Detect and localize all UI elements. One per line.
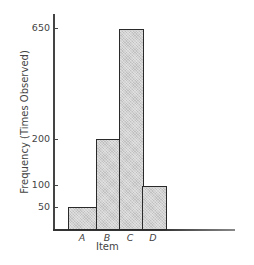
x-label-d: D — [143, 232, 163, 243]
y-tick-label-100: 100 — [2, 180, 50, 190]
bar-c — [119, 29, 144, 230]
bar-d — [142, 186, 167, 230]
y-tick-label-200: 200 — [2, 134, 50, 144]
y-axis-title: Frequency (Times Observed) — [19, 22, 30, 222]
x-label-c: C — [120, 232, 140, 243]
y-tick-650 — [53, 28, 58, 29]
y-tick-label-650: 650 — [2, 23, 50, 33]
bar-b — [96, 139, 121, 230]
y-tick-100 — [53, 185, 58, 186]
y-tick-label-50: 50 — [2, 202, 50, 212]
bar-a — [68, 207, 97, 230]
x-label-a: A — [72, 232, 92, 243]
y-axis — [53, 14, 55, 230]
bar-chart: Frequency (Times Observed) 650 200 100 5… — [0, 0, 254, 265]
y-tick-50 — [53, 207, 58, 208]
y-tick-200 — [53, 139, 58, 140]
x-axis-title: Item — [96, 241, 119, 252]
